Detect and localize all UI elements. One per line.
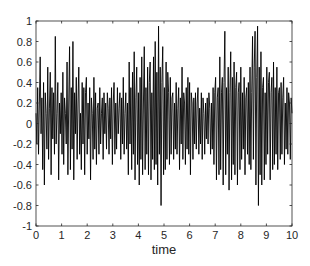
line-chart: 012345678910 10.80.60.40.20-0.2-0.4-0.6-… [0,0,310,266]
y-tick-label: -0.4 [13,159,32,171]
y-tick-label: 0 [26,118,32,130]
x-tick-label: 1 [59,229,65,241]
x-tick-label: 6 [187,229,193,241]
y-tick-label: -0.6 [13,179,32,191]
x-tick-label: 0 [33,229,39,241]
y-tick-label: -0.8 [13,200,32,212]
y-tick-label: 0.6 [17,56,32,68]
y-tick-label: 1 [26,15,32,27]
x-tick-label: 8 [238,229,244,241]
x-tick-label: 4 [135,229,141,241]
x-tick-label: 9 [263,229,269,241]
x-tick-label: 5 [161,229,167,241]
x-tick-label: 7 [212,229,218,241]
y-tick-label: 0.8 [17,36,32,48]
x-tick-label: 10 [286,229,298,241]
x-axis-label: time [152,242,177,257]
y-tick-label: -0.2 [13,138,32,150]
y-tick-label: 0.4 [17,77,32,89]
y-tick-label: -1 [22,220,32,232]
x-tick-label: 2 [84,229,90,241]
y-tick-label: 0.2 [17,97,32,109]
x-tick-label: 3 [110,229,116,241]
